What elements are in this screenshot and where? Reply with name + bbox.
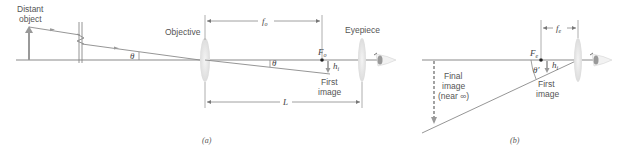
final-image-arrow [431, 61, 437, 124]
panel-a: Distant object θ Objective θ [16, 4, 396, 145]
h1-label-b: hi [552, 60, 559, 71]
eyepiece-lens-b [574, 38, 582, 82]
telescope-diagram: Distant object θ Objective θ [0, 0, 622, 152]
first-image-label-b: First [538, 79, 555, 89]
first-image-label-b-2: image [536, 89, 559, 99]
first-image-arrow-b [545, 61, 550, 73]
fe-dimension: fe [541, 20, 578, 58]
eyepiece-lens-a [358, 38, 366, 82]
objective-label: Objective [165, 27, 201, 37]
caption-a: (a) [202, 136, 212, 145]
distance-break-symbol [77, 22, 84, 63]
distant-object-label-2: object [19, 14, 42, 24]
eyepiece-label: Eyepiece [345, 25, 380, 35]
distant-object-arrow [25, 26, 33, 60]
focal-point-fe [539, 58, 543, 62]
first-image-label-a: First [321, 77, 338, 87]
refracted-ray [205, 60, 330, 74]
eye-icon-a [374, 53, 396, 66]
theta-prime-label: θ′ [533, 65, 540, 75]
h1-label-a: hi [333, 61, 340, 72]
panel-b: Final image (near ∞) θ′ Fe hi First imag… [422, 20, 612, 145]
svg-text:L: L [282, 97, 288, 107]
final-image-label-2: image [442, 81, 465, 91]
fe-point-label: Fe [529, 48, 539, 59]
caption-b: (b) [510, 136, 520, 145]
fo-dimension: fo [205, 14, 322, 58]
eye-icon-b [590, 53, 612, 66]
final-image-label-3: (near ∞) [438, 91, 469, 101]
first-image-label-a-2: image [318, 87, 341, 97]
distant-object-label: Distant [17, 4, 44, 14]
first-image-arrow-a [326, 61, 331, 73]
theta-label-right: θ [272, 58, 277, 68]
theta-label-left: θ [130, 51, 135, 61]
focal-point-fo [320, 58, 324, 62]
final-image-label: Final [444, 71, 463, 81]
fo-point-label: Fo [317, 47, 327, 58]
